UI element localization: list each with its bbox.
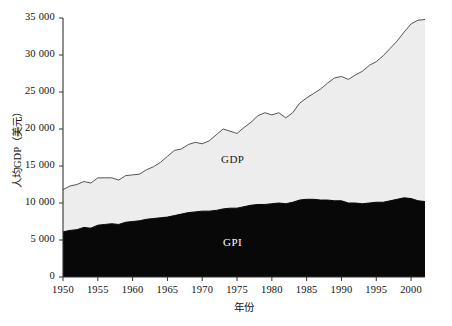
- gdp-series-label: GDP: [221, 153, 244, 165]
- x-axis-ticks: [63, 277, 411, 281]
- gpi-series-label: GPI: [223, 236, 242, 248]
- plot-layer: [63, 19, 425, 277]
- x-axis-title: 年份: [194, 299, 294, 314]
- chart-figure: 05 00010 00015 00020 00025 00030 00035 0…: [0, 0, 452, 326]
- x-tick-label: 2000: [386, 284, 436, 295]
- y-axis-title: 人均GDP（美元）: [9, 18, 24, 277]
- y-axis-ticks: [59, 18, 63, 277]
